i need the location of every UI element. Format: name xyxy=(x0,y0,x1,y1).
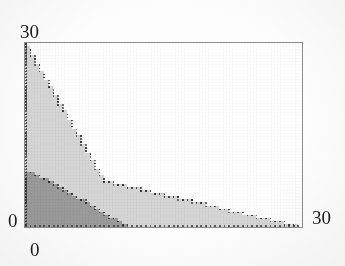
y-axis-min-label: 0 xyxy=(8,211,18,230)
y-axis-max-label: 30 xyxy=(20,22,39,41)
figure-root: 30 0 0 30 xyxy=(0,0,345,266)
plot-area xyxy=(24,42,303,228)
plot-canvas xyxy=(25,43,302,227)
x-axis-min-label: 0 xyxy=(30,240,40,259)
x-axis-max-label: 30 xyxy=(312,208,331,227)
